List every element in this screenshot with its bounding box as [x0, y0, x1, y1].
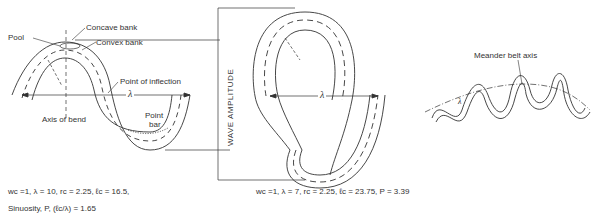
meander-drawing	[0, 0, 595, 215]
meander-belt-axis-label: Meander belt axis	[474, 52, 537, 60]
caption-a-line1: wc =1, λ = 10, rc = 2.25, ℓc = 16.5,	[8, 188, 129, 196]
convex-bank-label: Convex bank	[96, 39, 143, 47]
caption-a-line2: Sinuosity, P, (ℓc/λ) = 1.65	[8, 205, 96, 213]
lambda-label-a: λ	[126, 89, 134, 99]
caption-b: wc =1, λ = 7, rc = 2.25, ℓc = 23.75, P =…	[256, 188, 409, 196]
point-bar-label-2: bar	[149, 121, 161, 129]
meander-diagram: Pool Concave bank Convex bank Point of i…	[0, 0, 595, 215]
concave-bank-label: Concave bank	[86, 24, 137, 32]
axis-of-bend-label: Axis of bend	[42, 116, 86, 124]
pool-label: Pool	[8, 34, 24, 42]
lambda-label-b: λ	[318, 90, 326, 100]
point-of-inflection-label: Point of inflection	[120, 78, 181, 86]
point-bar-label-1: Point	[145, 112, 163, 120]
wave-amplitude-label: WAVE AMPLITUDE	[226, 69, 235, 146]
lambda-label-c: λ	[458, 98, 461, 106]
